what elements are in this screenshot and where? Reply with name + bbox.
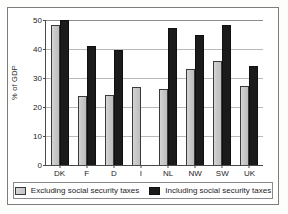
bar-excluding[interactable] — [132, 87, 141, 165]
y-tick-label: 10 — [33, 132, 42, 141]
y-tick-label: 0 — [38, 161, 42, 170]
x-tick-label: DK — [54, 169, 65, 178]
legend-label-excluding: Excluding social security taxes — [31, 186, 140, 195]
bar-excluding[interactable] — [51, 25, 60, 165]
y-tick-label: 40 — [33, 45, 42, 54]
x-tick-mark — [195, 165, 196, 168]
x-tick-label: D — [111, 169, 117, 178]
chart-legend: Excluding social security taxes Includin… — [13, 182, 273, 199]
bar-including[interactable] — [168, 28, 177, 165]
bar-group: UK — [236, 20, 263, 165]
bar-including[interactable] — [60, 20, 69, 165]
bar-including[interactable] — [87, 46, 96, 165]
bar-groups: DKFDINLNWSWUK — [46, 20, 263, 165]
x-tick-mark — [168, 165, 169, 168]
x-tick-mark — [59, 165, 60, 168]
x-tick-label: F — [84, 169, 89, 178]
legend-label-including: Including social security taxes — [165, 186, 271, 195]
bar-excluding[interactable] — [240, 86, 249, 165]
bar-including[interactable] — [114, 50, 123, 165]
x-tick-label: I — [140, 169, 142, 178]
bar-group: NL — [155, 20, 182, 165]
bar-group: I — [127, 20, 154, 165]
bar-excluding[interactable] — [186, 69, 195, 165]
x-tick-mark — [140, 165, 141, 168]
bar-excluding[interactable] — [159, 89, 168, 165]
plot-area: 01020304050 DKFDINLNWSWUK — [45, 20, 263, 166]
bar-group: SW — [209, 20, 236, 165]
bar-group: D — [100, 20, 127, 165]
x-tick-mark — [113, 165, 114, 168]
bar-excluding[interactable] — [78, 96, 87, 165]
y-tick-label: 20 — [33, 103, 42, 112]
bar-including[interactable] — [249, 66, 258, 165]
x-tick-mark — [86, 165, 87, 168]
bar-group: DK — [46, 20, 73, 165]
bar-excluding[interactable] — [105, 95, 114, 165]
y-tick-label: 50 — [33, 16, 42, 25]
x-tick-mark — [249, 165, 250, 168]
legend-entry-including: Including social security taxes — [149, 186, 271, 195]
bar-group: NW — [182, 20, 209, 165]
y-tick-mark — [43, 165, 46, 166]
bar-group: F — [73, 20, 100, 165]
legend-entry-excluding: Excluding social security taxes — [15, 186, 140, 195]
y-axis-title: % of GDP — [10, 53, 19, 113]
chart-figure: % of GDP 01020304050 DKFDINLNWSWUK Exclu… — [0, 0, 288, 214]
bar-including[interactable] — [195, 35, 204, 165]
bar-excluding[interactable] — [213, 61, 222, 165]
legend-swatch-excluding — [15, 187, 26, 195]
y-tick-label: 30 — [33, 74, 42, 83]
x-tick-mark — [222, 165, 223, 168]
legend-swatch-including — [149, 187, 160, 195]
x-tick-label: UK — [244, 169, 255, 178]
x-tick-label: NW — [189, 169, 202, 178]
x-tick-label: NL — [163, 169, 173, 178]
x-tick-label: SW — [216, 169, 229, 178]
bar-including[interactable] — [222, 25, 231, 165]
